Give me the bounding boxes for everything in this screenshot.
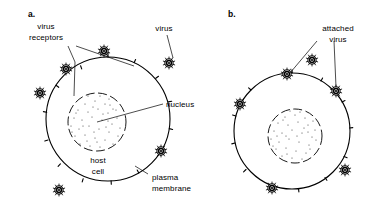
label-attached-virus-line1: attached xyxy=(322,24,354,33)
label-plasma-membrane-line1: plasma xyxy=(152,173,179,182)
label-nucleus: nucleus xyxy=(166,100,194,109)
nucleus-circle-b xyxy=(268,109,322,163)
virus-particle xyxy=(163,57,174,69)
panel-a-letter: a. xyxy=(28,9,35,19)
label-plasma-membrane-line2: membrane xyxy=(152,184,191,193)
label-host-cell-line2: cell xyxy=(92,167,105,176)
virus-attachment-figure: a. xyxy=(0,0,390,222)
virus-particle xyxy=(53,184,64,196)
virus-particle xyxy=(306,54,317,66)
virus-particle xyxy=(339,164,350,176)
panel-a: a. xyxy=(28,9,194,196)
label-virus-receptors-line1: virus xyxy=(37,22,54,31)
label-virus: virus xyxy=(155,24,172,33)
panel-b-letter: b. xyxy=(228,9,236,19)
panel-b: b. xyxy=(228,9,354,194)
figure-canvas: a. xyxy=(0,0,390,222)
label-host-cell-line1: host xyxy=(90,156,106,165)
virus-particle xyxy=(34,87,45,99)
label-virus-receptors-line2: receptors xyxy=(29,33,63,42)
label-attached-virus-line2: virus xyxy=(329,35,346,44)
